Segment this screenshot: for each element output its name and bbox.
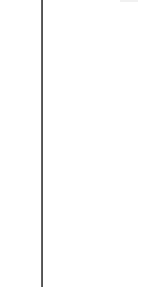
left-pane — [0, 0, 41, 287]
window-region — [0, 0, 157, 287]
top-edge-fragment — [120, 0, 138, 2]
right-pane — [43, 0, 157, 287]
